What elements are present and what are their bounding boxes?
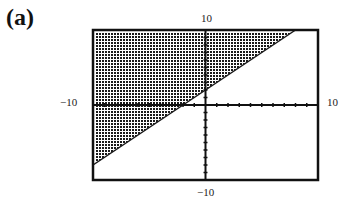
y-min-label: −10 [197, 186, 214, 198]
y-max-label: 10 [201, 12, 212, 24]
inequality-graph [0, 0, 344, 218]
x-max-label: 10 [327, 96, 338, 108]
x-min-label: −10 [60, 96, 77, 108]
